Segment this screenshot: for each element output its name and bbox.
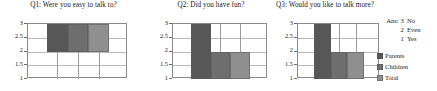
y-tick-mark [24,78,27,79]
y-tick-label: 1.5 [147,61,168,67]
y-tick-label: 3 [147,20,168,26]
answer-key-meaning: No [407,17,424,26]
chart-panel-q3: Q3: Would you like to talk more?32.521.5… [275,0,375,91]
whisker-lower [99,52,100,80]
whisker-upper [339,24,340,52]
y-tick-label: 1.5 [0,61,23,67]
box-rect [211,52,231,80]
legend-swatch-icon [377,75,383,81]
legend: Ans: 3 No2 Even1 YesParentsChildrenTotal [362,0,437,91]
box-rect [191,24,211,79]
y-tick-label: 2.5 [0,33,23,39]
y-tick-label: 1 [147,75,168,81]
answer-key-row: 1 Yes [362,35,424,44]
whisker-lower [78,52,79,80]
whisker-lower [57,52,58,80]
box-rect [47,24,68,52]
y-tick-label: 3 [275,20,293,26]
y-tick-label: 1 [0,75,23,81]
y-tick-label: 1.5 [275,61,293,67]
answer-key-value: 1 [400,35,403,42]
plot-area [27,23,127,78]
bar-group-total [230,24,250,77]
legend-swatch-icon [377,53,383,59]
bar-group-parents [314,24,331,77]
answer-key-row: Ans: 3 No [362,17,424,26]
answer-key-value: 3 [400,17,403,24]
y-tick-label: 2 [147,47,168,53]
y-tick-label: 2.5 [147,33,168,39]
answer-key-row: 2 Even [362,26,424,35]
box-rect [68,24,89,52]
legend-item-parents[interactable]: Parents [377,52,404,60]
bar-group-children [68,24,89,77]
answer-key-meaning: Yes [407,35,424,44]
answer-key-meaning: Even [407,26,424,35]
y-tick-label: 3 [0,20,23,26]
box-rect [331,52,348,80]
box-rect [88,24,109,52]
legend-item-total[interactable]: Total [377,74,398,82]
answer-key-label: Ans: [386,17,398,24]
whisker-upper [240,24,241,52]
y-tick-label: 2.5 [275,33,293,39]
bar-group-children [211,24,231,77]
whisker-upper [220,24,221,52]
legend-item-label: Children [385,63,408,71]
y-tick-mark [294,78,297,79]
whisker-upper [356,24,357,52]
chart-panel-q1: Q1: Were you easy to talk to?32.521.51 [0,0,147,91]
bar-group-total [88,24,109,77]
legend-swatch-icon [377,64,383,70]
answer-key-value: 2 [400,26,403,33]
plot-area [172,23,267,78]
figure-three-panel-survey-chart: Q1: Were you easy to talk to?32.521.51Q2… [0,0,437,91]
bar-group-parents [191,24,211,77]
bar-group-parents [47,24,68,77]
legend-item-children[interactable]: Children [377,63,408,71]
box-rect [230,52,250,80]
chart-panel-q2: Q2: Did you have fun?32.521.51 [147,0,275,91]
y-tick-mark [169,78,172,79]
y-tick-label: 2 [0,47,23,53]
bar-group-children [331,24,348,77]
legend-item-label: Total [385,74,398,82]
y-tick-label: 2 [275,47,293,53]
legend-item-label: Parents [385,52,404,60]
y-tick-label: 1 [275,75,293,81]
box-rect [314,24,331,79]
